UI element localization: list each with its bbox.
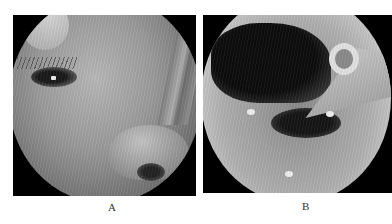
scan-texture bbox=[203, 15, 391, 193]
figure-panel-b bbox=[203, 15, 392, 193]
panel-label-a: A bbox=[108, 201, 116, 213]
figure-panel-a bbox=[13, 15, 196, 196]
panel-label-b: B bbox=[302, 200, 309, 212]
scan-texture bbox=[13, 15, 196, 196]
endoscopic-image-b bbox=[203, 15, 391, 193]
endoscopic-image-a bbox=[13, 15, 196, 196]
